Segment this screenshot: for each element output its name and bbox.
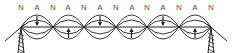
wave-envelope-lower: [147, 27, 179, 39]
standing-wave-diagram: NANANANANANAN: [0, 0, 232, 53]
wave-envelope-lower: [21, 27, 53, 39]
support-hatch: [208, 33, 214, 36]
wave-envelope-upper: [116, 15, 147, 27]
wave-envelope-upper: [179, 15, 211, 27]
wave-envelope-lower: [84, 27, 116, 39]
standing-wave-figure: [0, 0, 232, 53]
wave-envelope-upper: [53, 15, 84, 27]
arrowhead-up-icon: [130, 28, 134, 32]
support-hatch: [18, 33, 24, 36]
arrowhead-down-icon: [35, 22, 39, 26]
arrowhead-up-icon: [67, 28, 71, 32]
arrowhead-down-icon: [161, 22, 165, 26]
arrowhead-up-icon: [193, 28, 197, 32]
support-hatch: [208, 37, 214, 40]
support-hatch: [18, 37, 24, 40]
arrowhead-down-icon: [98, 22, 102, 26]
